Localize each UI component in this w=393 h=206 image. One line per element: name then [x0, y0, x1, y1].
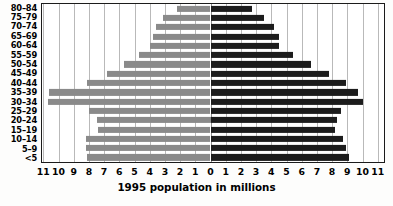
pyramid-row	[42, 153, 384, 162]
bar-left	[87, 154, 210, 160]
pyramid-row	[42, 13, 384, 22]
x-axis-tick-label: 1	[192, 165, 198, 179]
bar-left	[97, 117, 211, 123]
x-axis-tick-label: 7	[101, 165, 107, 179]
age-group-axis-labels: 80–8475–7970–7465–6960–6455–5950–5445–49…	[0, 3, 39, 163]
bar-right	[211, 33, 279, 39]
x-axis-tick-label: 5	[283, 165, 289, 179]
x-axis-tick-label: 7	[314, 165, 320, 179]
bar-left	[124, 61, 211, 67]
pyramid-row	[42, 41, 384, 50]
x-axis-tick-label: 9	[70, 165, 76, 179]
pyramid-row	[42, 4, 384, 13]
x-axis-tick-labels: 111098765432101234567891011	[41, 165, 385, 179]
bar-left	[163, 15, 210, 21]
x-axis-tick-label: 3	[162, 165, 168, 179]
bar-left	[153, 33, 211, 39]
pyramid-row	[42, 69, 384, 78]
x-axis-tick-label: 11	[371, 165, 384, 179]
pyramid-row	[42, 78, 384, 87]
x-axis-tick-label: 6	[116, 165, 122, 179]
bar-left	[48, 99, 211, 105]
plot-area	[41, 3, 385, 163]
bar-left	[107, 71, 210, 77]
bar-left	[49, 89, 210, 95]
age-group-label: 10–14	[0, 135, 39, 144]
x-axis-tick-label: 6	[298, 165, 304, 179]
x-axis-tick-label: 0	[207, 165, 213, 179]
bar-right	[211, 24, 275, 30]
x-axis-tick-label: 1	[222, 165, 228, 179]
x-axis-tick-label: 8	[86, 165, 92, 179]
age-group-label: 60–64	[0, 41, 39, 50]
pyramid-row	[42, 88, 384, 97]
bar-right	[211, 126, 336, 132]
bar-right	[211, 117, 337, 123]
bar-right	[211, 43, 279, 49]
pyramid-row	[42, 106, 384, 115]
x-axis-tick-label: 8	[329, 165, 335, 179]
x-axis-tick-label: 2	[238, 165, 244, 179]
pyramid-row	[42, 125, 384, 134]
pyramid-row	[42, 97, 384, 106]
bar-right	[211, 154, 349, 160]
bar-right	[211, 61, 311, 67]
x-axis-tick-label: 2	[177, 165, 183, 179]
bar-right	[211, 108, 342, 114]
bar-right	[211, 6, 252, 12]
bar-left	[98, 126, 210, 132]
pyramid-row	[42, 32, 384, 41]
bar-left	[156, 24, 211, 30]
bar-right	[211, 71, 330, 77]
bar-right	[211, 15, 264, 21]
x-axis-tick-label: 4	[268, 165, 274, 179]
bar-left	[89, 108, 211, 114]
bar-left	[86, 145, 211, 151]
x-axis-tick-label: 9	[344, 165, 350, 179]
age-group-label: <5	[0, 154, 39, 163]
bar-left	[87, 80, 210, 86]
bar-left	[86, 136, 211, 142]
x-axis-tick-label: 5	[131, 165, 137, 179]
bar-right	[211, 99, 363, 105]
bar-rows	[42, 4, 384, 162]
pyramid-row	[42, 116, 384, 125]
population-pyramid-chart: 80–8475–7970–7465–6960–6455–5950–5445–49…	[0, 0, 393, 206]
x-axis-title: 1995 population in millions	[0, 181, 393, 193]
bar-left	[139, 52, 210, 58]
bar-right	[211, 52, 293, 58]
x-axis-tick-label: 10	[52, 165, 65, 179]
age-group-label: 70–74	[0, 22, 39, 31]
age-group-label: 20–24	[0, 116, 39, 125]
bar-left	[177, 6, 210, 12]
pyramid-row	[42, 134, 384, 143]
x-axis-tick-label: 3	[253, 165, 259, 179]
age-group-label: 80–84	[0, 3, 39, 12]
bar-right	[211, 145, 346, 151]
pyramid-row	[42, 60, 384, 69]
x-axis-tick-label: 11	[37, 165, 50, 179]
bar-right	[211, 80, 346, 86]
bar-right	[211, 136, 343, 142]
bar-right	[211, 89, 358, 95]
bar-left	[150, 43, 211, 49]
pyramid-row	[42, 23, 384, 32]
x-axis-tick-label: 10	[356, 165, 369, 179]
pyramid-row	[42, 50, 384, 59]
age-group-label: 35–39	[0, 88, 39, 97]
x-axis-tick-label: 4	[146, 165, 152, 179]
age-group-label: 45–49	[0, 69, 39, 78]
pyramid-row	[42, 143, 384, 152]
